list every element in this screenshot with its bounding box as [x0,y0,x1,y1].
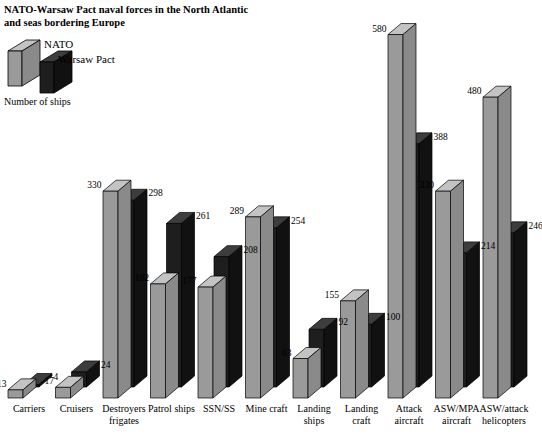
bar-nato-7 [341,290,369,398]
value-label-warsaw-pact-10: 246 [529,221,542,231]
bar-nato-9 [436,180,464,398]
value-label-warsaw-pact-1: 24 [101,360,111,370]
value-label-nato-0: 13 [0,379,7,389]
value-label-nato-5: 289 [230,206,245,216]
category-label-9: ASW/MPA [434,403,481,414]
y-axis-label: Number of ships [4,96,71,107]
category-label-2: frigates [109,415,139,426]
naval-forces-bar-chart: NATO-Warsaw Pact naval forces in the Nor… [0,0,542,444]
value-label-warsaw-pact-4: 208 [244,245,259,255]
value-label-warsaw-pact-3: 261 [196,211,211,221]
value-label-nato-4: 177 [182,276,197,286]
value-label-nato-3: 182 [135,273,150,283]
category-label-8: Attack [396,403,423,414]
value-label-nato-7: 155 [325,290,340,300]
bar-nato-6 [293,348,321,398]
bar-nato-8 [388,24,416,398]
category-label-1: Cruisers [60,403,93,414]
chart-container: NATO-Warsaw Pact naval forces in the Nor… [0,0,542,444]
legend-label-nato: NATO [44,38,73,50]
category-label-8: aircraft [395,415,424,426]
legend-label-warsaw-pact: Warsaw Pact [58,53,115,65]
value-label-warsaw-pact-9: 214 [481,241,496,251]
value-label-nato-2: 330 [87,180,102,190]
category-label-9: aircraft [442,415,471,426]
value-label-warsaw-pact-8: 388 [434,132,449,142]
value-label-nato-6: 63 [282,348,292,358]
value-label-warsaw-pact-5: 254 [291,216,306,226]
category-label-3: Patrol ships [148,403,195,414]
category-label-7: craft [352,415,371,426]
chart-title-line-2: and seas bordering Europe [4,17,125,28]
bar-nato-4 [198,276,226,398]
category-label-7: Landing [345,403,378,414]
value-label-nato-10: 480 [467,86,482,96]
category-label-4: SSN/SS [203,403,235,414]
bar-nato-3 [151,273,179,398]
chart-title-line-1: NATO-Warsaw Pact naval forces in the Nor… [4,4,248,15]
value-label-warsaw-pact-0: 4 [54,372,59,382]
category-label-0: Carriers [13,403,45,414]
category-label-6: Landing [297,403,330,414]
value-label-nato-1: 17 [45,376,55,386]
value-label-nato-9: 330 [420,180,435,190]
category-label-2: Destroyers [102,403,145,414]
value-label-nato-8: 580 [372,24,387,34]
value-label-warsaw-pact-7: 100 [386,312,401,322]
category-label-10: helicopters [482,415,526,426]
value-label-warsaw-pact-2: 298 [149,188,164,198]
category-label-5: Mine craft [246,403,288,414]
category-label-6: ships [304,415,325,426]
category-label-10: ASW/attack [480,403,529,414]
bar-nato-5 [246,206,274,398]
value-label-warsaw-pact-6: 92 [339,317,349,327]
